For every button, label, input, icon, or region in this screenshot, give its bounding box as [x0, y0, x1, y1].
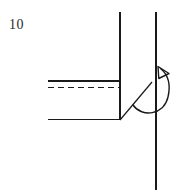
figure-container: 10: [0, 0, 182, 194]
rotation-arrow-curve: [133, 69, 169, 113]
figure-drawing: [0, 0, 182, 194]
problem-number-label: 10: [9, 17, 24, 33]
diagonal-line: [120, 82, 152, 120]
